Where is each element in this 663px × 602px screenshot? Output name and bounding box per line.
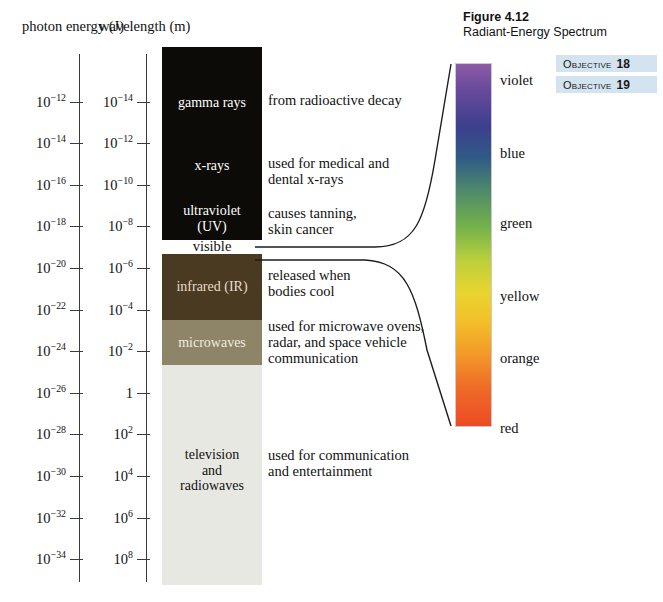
wavelength-tick: 10−6	[85, 261, 151, 275]
wavelength-tick-label: 10−10	[85, 177, 133, 194]
wavelength-tick: 10−12	[85, 137, 151, 151]
wavelength-tick: 106	[85, 511, 151, 525]
photon-energy-tick: 10−34	[10, 553, 84, 567]
wavelength-tick-mark	[137, 434, 150, 435]
wavelength-tick-mark	[137, 476, 150, 477]
photon-energy-tick-label: 10−32	[10, 510, 66, 527]
color-label-green: green	[500, 215, 532, 232]
photon-energy-tick-label: 10−28	[10, 426, 66, 443]
color-label-violet: violet	[500, 72, 533, 89]
wavelength-tick-mark	[137, 268, 150, 269]
wavelength-tick: 10−8	[85, 220, 151, 234]
band-label-gamma rays: gamma rays	[162, 95, 262, 111]
photon-energy-tick-mark	[70, 268, 83, 269]
photon-energy-tick: 10−28	[10, 428, 84, 442]
radiant-energy-spectrum-figure: photon energy (J) wavelength (m) 10−1210…	[0, 0, 663, 602]
wavelength-axis-line	[146, 54, 147, 582]
wavelength-tick: 10−2	[85, 345, 151, 359]
wavelength-tick-mark	[137, 185, 150, 186]
photon-energy-tick-label: 10−30	[10, 468, 66, 485]
photon-energy-tick: 10−24	[10, 345, 84, 359]
photon-energy-tick-label: 10−34	[10, 551, 66, 568]
photon-energy-tick: 10−12	[10, 95, 84, 109]
band-description-infrared: released when bodies cool	[268, 267, 351, 299]
wavelength-tick: 10−14	[85, 95, 151, 109]
band-description-ultraviolet: causes tanning, skin cancer	[268, 205, 357, 237]
photon-energy-tick-mark	[70, 393, 83, 394]
objective-number: 19	[617, 78, 630, 92]
wavelength-tick-label: 104	[85, 468, 133, 485]
wavelength-tick-label: 10−4	[85, 302, 133, 319]
wavelength-tick-label: 106	[85, 510, 133, 527]
objective-badge-18[interactable]: Objective18	[556, 55, 657, 72]
photon-energy-tick: 10−16	[10, 178, 84, 192]
figure-number: Figure 4.12	[463, 10, 607, 25]
photon-energy-tick-mark	[70, 434, 83, 435]
color-label-orange: orange	[500, 350, 539, 367]
photon-energy-tick-label: 10−14	[10, 135, 66, 152]
band-description-microwaves: used for microwave ovens, radar, and spa…	[268, 318, 424, 366]
wavelength-tick-mark	[137, 393, 150, 394]
band-label-microwaves: microwaves	[162, 335, 262, 351]
wavelength-tick: 10−4	[85, 303, 151, 317]
objective-word: Objective	[563, 58, 612, 70]
wavelength-axis-header: wavelength (m)	[99, 18, 190, 35]
band-description-gamma rays: from radioactive decay	[268, 92, 402, 108]
photon-energy-tick-mark	[70, 226, 83, 227]
band-label-infrared: infrared (IR)	[162, 279, 262, 295]
wavelength-tick-label: 102	[85, 426, 133, 443]
objective-word: Objective	[563, 79, 612, 91]
figure-subtitle: Radiant-Energy Spectrum	[463, 25, 607, 40]
photon-energy-tick-label: 10−24	[10, 343, 66, 360]
band-description-television-and-radiowaves: used for communication and entertainment	[268, 447, 409, 479]
wavelength-tick-mark	[137, 310, 150, 311]
photon-energy-tick-mark	[70, 143, 83, 144]
wavelength-tick-label: 10−14	[85, 94, 133, 111]
visible-band-label: visible	[162, 238, 262, 255]
color-label-blue: blue	[500, 145, 525, 162]
wavelength-tick-label: 10−12	[85, 135, 133, 152]
objective-number: 18	[617, 57, 630, 71]
objective-badge-19[interactable]: Objective19	[556, 76, 657, 93]
wavelength-tick-label: 1	[85, 385, 133, 402]
visible-spectrum-bar	[455, 63, 492, 427]
wavelength-tick-mark	[137, 351, 150, 352]
photon-energy-tick: 10−30	[10, 469, 84, 483]
photon-energy-tick: 10−22	[10, 303, 84, 317]
photon-energy-tick-label: 10−16	[10, 177, 66, 194]
photon-energy-tick: 10−20	[10, 261, 84, 275]
photon-energy-tick-mark	[70, 310, 83, 311]
color-label-yellow: yellow	[500, 288, 539, 305]
photon-energy-tick-mark	[70, 185, 83, 186]
color-label-red: red	[500, 420, 519, 437]
wavelength-tick-label: 10−6	[85, 260, 133, 277]
band-label-x-rays: x-rays	[162, 158, 262, 174]
band-label-television-and-radiowaves: television and radiowaves	[162, 447, 262, 494]
photon-energy-tick-mark	[70, 476, 83, 477]
band-description-x-rays: used for medical and dental x-rays	[268, 155, 389, 187]
wavelength-tick-mark	[137, 102, 150, 103]
photon-energy-tick-label: 10−18	[10, 218, 66, 235]
figure-caption: Figure 4.12 Radiant-Energy Spectrum	[463, 10, 607, 40]
photon-energy-tick: 10−32	[10, 511, 84, 525]
wavelength-tick-mark	[137, 143, 150, 144]
photon-energy-tick: 10−26	[10, 386, 84, 400]
wavelength-tick-label: 10−8	[85, 218, 133, 235]
wavelength-tick-label: 108	[85, 551, 133, 568]
wavelength-tick: 104	[85, 469, 151, 483]
wavelength-tick-mark	[137, 518, 150, 519]
band-label-ultraviolet: ultraviolet (UV)	[162, 203, 262, 234]
photon-energy-tick-mark	[70, 102, 83, 103]
wavelength-tick: 10−10	[85, 178, 151, 192]
photon-energy-tick-label: 10−26	[10, 385, 66, 402]
photon-energy-tick: 10−14	[10, 137, 84, 151]
wavelength-tick: 108	[85, 553, 151, 567]
photon-energy-axis-line	[79, 54, 80, 582]
wavelength-tick-mark	[137, 226, 150, 227]
photon-energy-tick-label: 10−12	[10, 94, 66, 111]
wavelength-tick: 102	[85, 428, 151, 442]
photon-energy-tick-label: 10−22	[10, 302, 66, 319]
wavelength-tick: 1	[85, 386, 151, 400]
photon-energy-tick-mark	[70, 559, 83, 560]
photon-energy-tick-mark	[70, 351, 83, 352]
